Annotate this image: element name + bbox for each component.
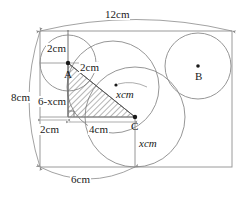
dim-label-horizontal-base: 4cm <box>88 124 109 135</box>
point-label-a: A <box>64 69 72 80</box>
point-marker-c <box>133 115 137 119</box>
geometry-figure: 12cm 8cm 6cm 2cm 2cm 6-xcm 2cm 4cm xcm x… <box>0 0 245 198</box>
dim-label-slant-x: xcm <box>115 89 135 100</box>
point-label-b: B <box>195 71 202 82</box>
dim-arc-top <box>40 20 232 32</box>
leader-slant-x <box>118 83 147 87</box>
dim-label-top: 12cm <box>104 9 130 20</box>
dim-label-drop-x: xcm <box>138 138 158 149</box>
dim-label-bottom: 6cm <box>70 174 91 185</box>
dim-label-vertical-leg: 6-xcm <box>37 96 67 107</box>
point-marker-a <box>66 61 70 65</box>
dim-label-circle-a-radius-right: 2cm <box>79 62 100 73</box>
dim-label-circle-a-radius-top: 2cm <box>46 43 67 54</box>
point-marker-b <box>196 64 200 68</box>
point-marker-tangent <box>114 83 117 86</box>
dim-label-horizontal-left: 2cm <box>39 124 60 135</box>
point-label-c: C <box>131 121 138 132</box>
dim-label-left: 8cm <box>10 92 31 103</box>
